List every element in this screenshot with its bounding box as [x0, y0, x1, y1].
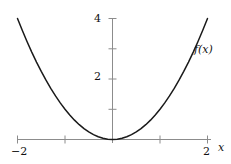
- plot-canvas: [0, 0, 231, 164]
- function-curve-label: f(x): [194, 44, 213, 55]
- x-tick-label-neg2: −2: [11, 146, 27, 157]
- y-tick-label-2: 2: [94, 71, 101, 82]
- y-tick-label-4: 4: [94, 13, 101, 24]
- x-tick-label-2: 2: [203, 146, 210, 157]
- x-axis-label: x: [218, 142, 224, 153]
- function-plot-figure: 4 2 −2 2 x f(x): [0, 0, 231, 164]
